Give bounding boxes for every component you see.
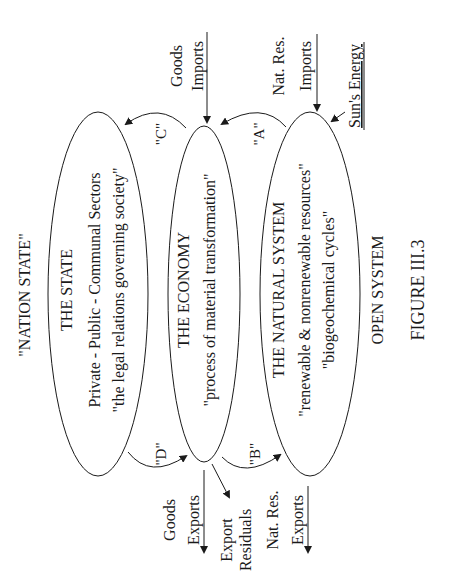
nation-state-diagram: "NATION STATE" THE STATE Private - Publi… <box>0 0 454 588</box>
state-description: "the legal relations governing society" <box>110 168 128 413</box>
natural-resources: "renewable & nonrenewable resources" <box>296 163 313 416</box>
state-title: THE STATE <box>58 249 75 331</box>
goods-imports-label-2: Imports <box>189 41 207 91</box>
export-residuals-label-2: Residuals <box>237 509 254 571</box>
economy-title: THE ECONOMY <box>175 232 192 348</box>
flow-c-label: "C" <box>153 123 169 145</box>
goods-exports-label-1: Goods <box>161 499 178 541</box>
economy-description: "process of material transformation" <box>201 174 219 407</box>
natres-exports-label-1: Nat. Res. <box>264 490 281 549</box>
flow-b-label: "B" <box>247 443 263 465</box>
natural-system-title: THE NATURAL SYSTEM <box>270 202 287 378</box>
nation-state-title: "NATION STATE" <box>16 233 33 356</box>
goods-imports-label-1: Goods <box>168 45 185 87</box>
figure-caption: FIGURE III.3 <box>408 240 428 341</box>
natres-exports-label-2: Exports <box>289 495 307 545</box>
open-system-label: OPEN SYSTEM <box>369 236 386 345</box>
goods-exports-label-2: Exports <box>185 495 203 545</box>
natres-imports-label-1: Nat. Res. <box>270 36 287 95</box>
natres-imports-label-2: Imports <box>297 41 315 91</box>
export-residuals-label-1: Export <box>218 518 236 562</box>
biogeochemical-cycles: "biogeochemical cycles" <box>320 211 338 369</box>
flow-d-label: "D" <box>153 442 169 465</box>
state-sectors: Private - Public - Communal Sectors <box>86 172 103 407</box>
sun-energy-label: Sun's Energy <box>346 44 364 128</box>
flow-a-label: "A" <box>251 122 267 145</box>
export-residuals-arrow <box>212 464 229 497</box>
sun-energy-arrow <box>332 112 345 121</box>
